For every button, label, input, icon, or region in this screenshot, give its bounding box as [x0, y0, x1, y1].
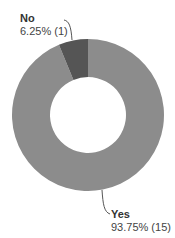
label-no: No 6.25% (1): [20, 12, 68, 38]
donut-chart: No 6.25% (1) Yes 93.75% (15): [0, 0, 175, 238]
leader-line-yes: [102, 190, 110, 214]
label-yes-name: Yes: [111, 208, 171, 221]
label-no-name: No: [20, 12, 68, 25]
slice-yes: [12, 39, 164, 191]
donut-slices: [12, 39, 164, 191]
label-no-value: 6.25% (1): [20, 25, 68, 38]
label-yes-value: 93.75% (15): [111, 221, 171, 234]
label-yes: Yes 93.75% (15): [111, 208, 171, 234]
